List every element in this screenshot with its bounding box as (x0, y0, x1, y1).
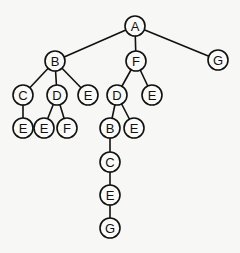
node-label: F (63, 121, 71, 136)
tree-node-f: F (57, 118, 77, 138)
tree-edge (55, 26, 135, 61)
tree-edge (135, 26, 218, 60)
tree-node-e: E (100, 185, 120, 205)
tree-node-b: B (45, 51, 65, 71)
node-label: G (105, 221, 115, 236)
node-label: C (18, 88, 27, 103)
tree-node-e: E (78, 85, 98, 105)
tree-node-d: D (47, 85, 67, 105)
tree-node-f: F (126, 51, 146, 71)
node-label: E (84, 88, 93, 103)
node-label: G (213, 53, 223, 68)
tree-node-g: G (100, 218, 120, 238)
node-label: B (106, 121, 115, 136)
tree-node-c: C (100, 152, 120, 172)
node-label: D (112, 88, 121, 103)
tree-node-e: E (124, 118, 144, 138)
tree-node-g: G (208, 50, 228, 70)
node-label: E (130, 121, 139, 136)
node-label: E (106, 188, 115, 203)
tree-node-b: B (100, 118, 120, 138)
node-label: B (51, 54, 60, 69)
tree-diagram: ABFGCDEDEEEFBECEG (0, 0, 240, 253)
node-label: E (148, 88, 157, 103)
tree-nodes: ABFGCDEDEEEFBECEG (13, 16, 228, 238)
tree-node-e: E (142, 85, 162, 105)
tree-node-e: E (34, 118, 54, 138)
tree-node-a: A (125, 16, 145, 36)
tree-node-e: E (13, 118, 33, 138)
node-label: E (19, 121, 28, 136)
tree-node-d: D (107, 85, 127, 105)
node-label: F (132, 54, 140, 69)
node-label: E (40, 121, 49, 136)
node-label: C (105, 155, 114, 170)
node-label: A (131, 19, 140, 34)
node-label: D (52, 88, 61, 103)
tree-node-c: C (13, 85, 33, 105)
